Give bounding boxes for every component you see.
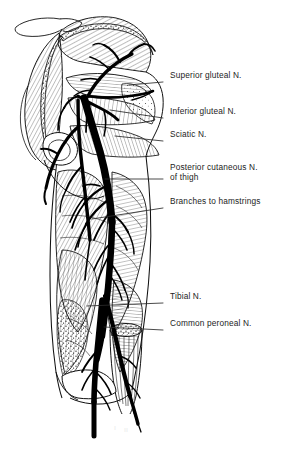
label-branches-to-hamstrings: Branches to hamstrings xyxy=(170,196,260,206)
label-posterior-cutaneous-nerve-line1: Posterior cutaneous N. xyxy=(170,162,258,172)
label-common-peroneal-nerve: Common peroneal N. xyxy=(170,318,252,328)
anatomy-illustration xyxy=(0,0,288,454)
label-superior-gluteal-nerve: Superior gluteal N. xyxy=(170,70,242,80)
label-inferior-gluteal-nerve: Inferior gluteal N. xyxy=(170,106,236,116)
label-posterior-cutaneous-nerve-line2: of thigh xyxy=(170,172,198,182)
label-sciatic-nerve: Sciatic N. xyxy=(170,129,207,139)
anatomy-figure: Superior gluteal N. Inferior gluteal N. … xyxy=(0,0,288,454)
label-tibial-nerve: Tibial N. xyxy=(170,291,201,301)
